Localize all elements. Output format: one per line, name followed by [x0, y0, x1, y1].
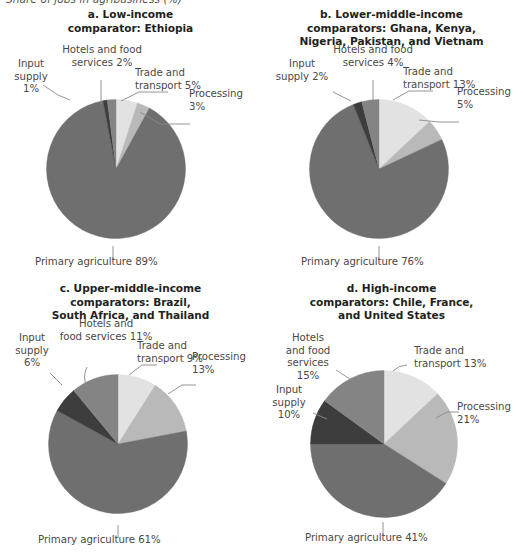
- label-trade-d: Trade and transport 13%: [414, 345, 514, 370]
- label-primary-d: Primary agriculture 41%: [305, 532, 495, 545]
- pie-chart-a: [46, 99, 186, 239]
- panel-d-title: d. High-income comparators: Chile, Franc…: [261, 282, 522, 323]
- pie-panel-c: c. Upper-middle-income comparators: Braz…: [0, 277, 261, 554]
- label-processing-c: Processing 13%: [192, 351, 262, 376]
- label-hotels-a: Hotels and food services 2%: [58, 44, 146, 69]
- label-hotels-d: Hotels and food services 15%: [277, 332, 339, 382]
- panel-a-title: a. Low-income comparator: Ethiopia: [0, 8, 261, 35]
- panel-b-title-line-2: comparators: Ghana, Kenya,: [307, 22, 476, 34]
- pie-svg-a: [46, 99, 186, 239]
- panel-d-title-line-3: and United States: [338, 309, 445, 321]
- label-primary-c: Primary agriculture 61%: [38, 534, 228, 547]
- label-processing-b: Processing 5%: [457, 86, 523, 111]
- panel-b-title: b. Lower-middle-income comparators: Ghan…: [261, 8, 522, 49]
- pie-chart-b: [309, 99, 449, 239]
- pie-chart-d: [310, 370, 458, 518]
- panel-b-title-line-1: b. Lower-middle-income: [320, 8, 463, 20]
- pie-panel-d: d. High-income comparators: Chile, Franc…: [261, 277, 522, 554]
- panel-a-title-line-2: comparator: Ethiopia: [68, 22, 193, 34]
- panel-d-title-line-1: d. High-income: [347, 282, 437, 294]
- panel-a-title-line-1: a. Low-income: [88, 8, 173, 20]
- label-input-supply-a: Input supply 1%: [0, 58, 62, 96]
- pie-panel-b: b. Lower-middle-income comparators: Ghan…: [261, 0, 522, 277]
- label-primary-a: Primary agriculture 89%: [35, 256, 225, 269]
- panel-d-title-line-2: comparators: Chile, France,: [310, 296, 474, 308]
- label-primary-b: Primary agriculture 76%: [301, 256, 491, 269]
- pie-svg-c: [48, 374, 188, 514]
- pie-svg-d: [310, 370, 458, 518]
- label-input-supply-d: Input supply 10%: [261, 384, 317, 422]
- label-processing-d: Processing 21%: [457, 401, 523, 426]
- panel-c-title: c. Upper-middle-income comparators: Braz…: [0, 282, 261, 323]
- pie-svg-b: [309, 99, 449, 239]
- pie-panel-a: a. Low-income comparator: Ethiopia Input…: [0, 0, 261, 277]
- panel-c-title-line-2: comparators: Brazil,: [70, 296, 190, 308]
- label-processing-a: Processing 3%: [189, 88, 261, 113]
- panel-c-title-line-1: c. Upper-middle-income: [60, 282, 201, 294]
- pie-chart-c: [48, 374, 188, 514]
